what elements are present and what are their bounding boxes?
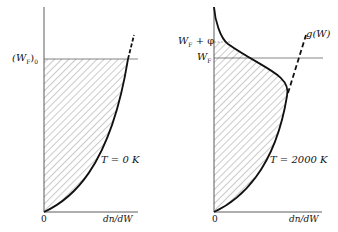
left-fermi-level-label: (WF)0 [12,52,38,65]
left-temperature-label: T = 0 K [101,154,139,165]
g-w-label: g(W) [306,28,330,39]
right-temperature-label: T = 2000 K [270,154,328,165]
right-origin-label: 0 [212,214,218,224]
left-origin-label: 0 [41,214,47,224]
left-filled-region [44,59,128,212]
fermi-distribution-diagram [0,0,338,232]
work-function-label: WF + φ [178,35,214,48]
right-filled-region [214,42,288,212]
left-panel [44,7,138,212]
right-x-axis-label: dn/dW [289,214,319,224]
left-density-curve-extension [128,35,134,59]
g-w-dashed-curve [288,35,306,93]
right-fermi-level-label: WF [197,51,211,64]
left-x-axis-label: dn/dW [103,214,133,224]
